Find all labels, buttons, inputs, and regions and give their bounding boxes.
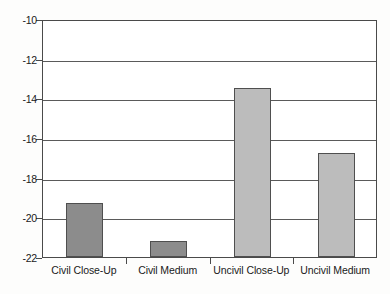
bar-chart: Civil Close-UpCivil MediumUncivil Close-… [0, 0, 390, 294]
bar [318, 153, 355, 257]
x-axis-category-label: Civil Medium [126, 264, 210, 276]
y-axis-tick-label: -22 [0, 252, 42, 264]
plot-area [42, 20, 377, 258]
bar [66, 203, 103, 257]
y-axis-tick-label: -10 [0, 14, 42, 26]
bar [234, 88, 271, 257]
x-axis-labels: Civil Close-UpCivil MediumUncivil Close-… [42, 264, 377, 282]
bar [150, 241, 187, 257]
x-axis-category-label: Civil Close-Up [42, 264, 126, 276]
x-axis-category-label: Uncivil Medium [293, 264, 377, 276]
gridline [43, 140, 376, 141]
y-axis-tick-label: -12 [0, 54, 42, 66]
gridline [43, 61, 376, 62]
y-axis-tick-label: -20 [0, 212, 42, 224]
gridline [43, 100, 376, 101]
y-axis-tick-label: -14 [0, 93, 42, 105]
y-axis-tick-label: -18 [0, 173, 42, 185]
x-axis-category-label: Uncivil Close-Up [210, 264, 294, 276]
y-axis-tick-label: -16 [0, 133, 42, 145]
